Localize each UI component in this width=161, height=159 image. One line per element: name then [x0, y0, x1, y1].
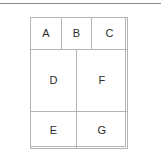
cell-label-b: B	[73, 28, 81, 39]
cell-label-g: G	[98, 125, 107, 136]
grid-cell-e[interactable]: E	[30, 111, 77, 149]
grid-cell-g[interactable]: G	[76, 111, 128, 149]
grid-cell-a[interactable]: A	[30, 17, 62, 50]
cell-label-e: E	[50, 125, 58, 136]
cell-label-f: F	[99, 75, 106, 86]
grid-cell-f[interactable]: F	[76, 49, 128, 112]
grid-cell-c[interactable]: C	[91, 17, 128, 50]
layout-grid: A B C D F E G	[30, 17, 126, 147]
grid-cell-d[interactable]: D	[30, 49, 77, 112]
cell-label-c: C	[105, 28, 113, 39]
horizontal-divider	[0, 3, 161, 4]
cell-label-d: D	[49, 75, 57, 86]
diagram-canvas: A B C D F E G	[0, 0, 161, 159]
grid-cell-b[interactable]: B	[61, 17, 92, 50]
cell-label-a: A	[42, 28, 50, 39]
